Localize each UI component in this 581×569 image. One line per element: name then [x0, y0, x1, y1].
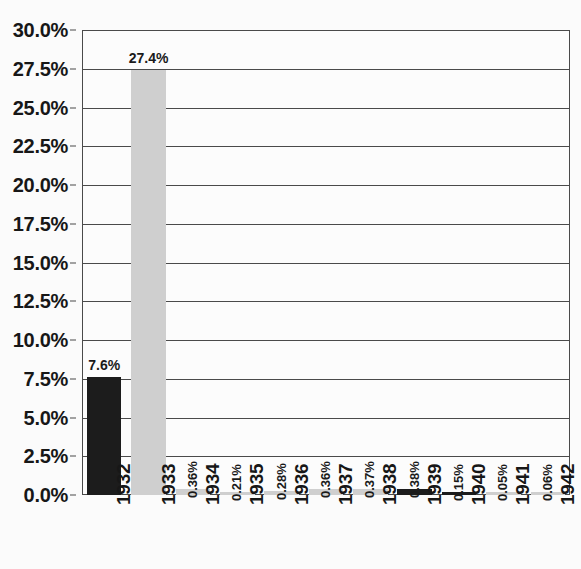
y-tick-mark — [70, 495, 76, 496]
gridline — [83, 301, 569, 302]
gridline — [83, 456, 569, 457]
y-tick-mark — [70, 146, 76, 147]
x-tick-label-1937: 1937 — [335, 464, 357, 505]
gridline — [83, 185, 569, 186]
x-tick-label-1934: 1934 — [202, 464, 224, 505]
y-tick-label: 7.5% — [24, 367, 68, 390]
x-tick-label-1932: 1932 — [113, 464, 135, 505]
y-tick-mark — [70, 340, 76, 341]
y-tick-mark — [70, 185, 76, 186]
y-axis: 30.0%27.5%25.0%22.5%20.0%17.5%15.0%12.5%… — [0, 30, 76, 495]
y-tick-label: 0.0% — [24, 484, 68, 507]
x-tick-label-1942: 1942 — [557, 464, 579, 505]
y-tick-label: 22.5% — [13, 135, 68, 158]
x-tick-label-1940: 1940 — [468, 464, 490, 505]
bar-chart: 30.0%27.5%25.0%22.5%20.0%17.5%15.0%12.5%… — [0, 0, 581, 569]
y-tick-mark — [70, 301, 76, 302]
y-tick-label: 2.5% — [24, 445, 68, 468]
plot-area — [82, 30, 570, 495]
x-tick-label-1941: 1941 — [512, 464, 534, 505]
x-tick-label-1933: 1933 — [158, 464, 180, 505]
y-tick-mark — [70, 107, 76, 108]
gridline — [83, 224, 569, 225]
gridline — [83, 379, 569, 380]
y-tick-label: 20.0% — [13, 174, 68, 197]
x-tick-label-1939: 1939 — [424, 464, 446, 505]
y-tick-mark — [70, 68, 76, 69]
y-tick-label: 15.0% — [13, 251, 68, 274]
gridline — [83, 146, 569, 147]
x-tick-label-1938: 1938 — [379, 464, 401, 505]
gridline — [83, 418, 569, 419]
y-tick-label: 27.5% — [13, 57, 68, 80]
y-tick-mark — [70, 417, 76, 418]
y-tick-mark — [70, 456, 76, 457]
x-tick-label-1935: 1935 — [246, 464, 268, 505]
chart-title — [0, 0, 581, 6]
y-tick-mark — [70, 30, 76, 31]
gridline — [83, 69, 569, 70]
gridline — [83, 340, 569, 341]
y-tick-mark — [70, 378, 76, 379]
y-tick-mark — [70, 223, 76, 224]
y-tick-label: 5.0% — [24, 406, 68, 429]
gridline — [83, 263, 569, 264]
y-tick-label: 10.0% — [13, 329, 68, 352]
gridline — [83, 108, 569, 109]
y-tick-label: 30.0% — [13, 19, 68, 42]
x-tick-label-1936: 1936 — [291, 464, 313, 505]
y-tick-label: 25.0% — [13, 96, 68, 119]
y-tick-label: 12.5% — [13, 290, 68, 313]
x-axis: 1932193319341935193619371938193919401941… — [82, 500, 570, 569]
y-tick-mark — [70, 262, 76, 263]
y-tick-label: 17.5% — [13, 212, 68, 235]
